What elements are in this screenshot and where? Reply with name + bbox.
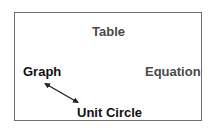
node-unit-circle-label: Unit Circle xyxy=(77,106,142,120)
node-equation-label: Equation xyxy=(145,65,201,79)
node-table-label: Table xyxy=(92,25,125,39)
node-graph-label: Graph xyxy=(23,65,61,79)
